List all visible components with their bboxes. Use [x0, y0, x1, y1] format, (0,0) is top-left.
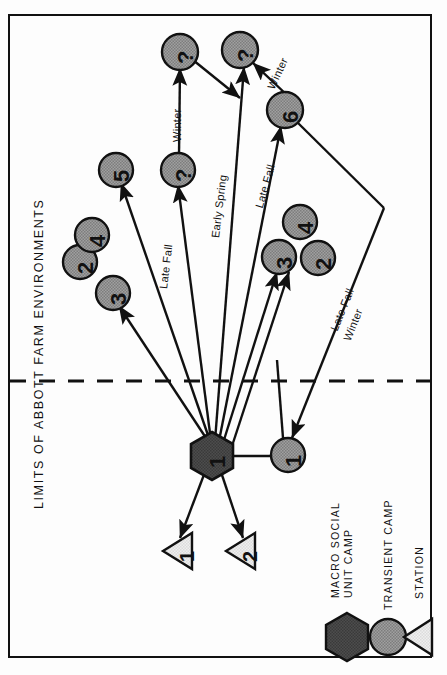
node-label-tc-2b: 2 — [311, 258, 337, 270]
edge-hub-to-tc3a — [119, 306, 208, 441]
legend-label-transient-camp: TRANSIENT CAMP — [383, 499, 394, 610]
node-label-tc-3a: 3 — [106, 293, 132, 305]
node-label-tc-4b: 4 — [293, 222, 319, 234]
legend-label-macro-social-unit-camp-line2: UNIT CAMP — [343, 529, 354, 598]
legend-label-macro-social-unit-camp-line1: MACRO SOCIAL — [330, 502, 341, 598]
node-label-tc-q2: ? — [173, 51, 199, 64]
edge-tc6-to-corner — [297, 122, 384, 208]
legend-label-station: STATION — [414, 546, 425, 599]
node-label-tc-4a: 4 — [85, 235, 111, 247]
node-label-tc-3b: 3 — [272, 257, 298, 269]
edge-tc1-short-up — [277, 360, 283, 438]
legend-circle-icon — [370, 619, 406, 655]
edge-label-winter-q1q2: Winter — [171, 108, 183, 142]
node-label-tc-q1: ? — [171, 169, 197, 182]
edge-hub-to-tc3b — [223, 272, 277, 443]
edge-hub-to-station2 — [221, 472, 243, 538]
page-title: LIMITS OF ABBOTT FARM ENVIRONMENTS — [32, 199, 46, 509]
diagram-vector-layer — [0, 0, 447, 675]
edge-hub-to-tc5 — [121, 183, 210, 441]
node-label-station-2: 2 — [239, 551, 262, 562]
node-label-msu-1: 1 — [205, 456, 231, 468]
node-label-tc-6: 6 — [278, 111, 304, 123]
legend-hexagon-icon — [326, 613, 368, 661]
node-label-tc-5: 5 — [109, 170, 135, 182]
node-label-tc-2a: 2 — [73, 262, 99, 274]
edge-hub-to-station1 — [180, 472, 205, 538]
node-label-tc-1: 1 — [281, 455, 307, 467]
figure-canvas: LIMITS OF ABBOTT FARM ENVIRONMENTS 1 1 2… — [0, 0, 447, 675]
node-label-station-1: 1 — [176, 551, 199, 562]
legend-triangle-icon — [404, 619, 432, 655]
node-label-tc-q3: ? — [233, 49, 259, 62]
